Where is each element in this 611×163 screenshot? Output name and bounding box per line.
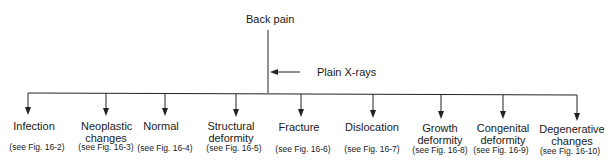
node-structural: Structural deformity xyxy=(202,120,260,144)
node-fracture: Fracture xyxy=(279,121,320,133)
node-growth: Growth deformity xyxy=(410,122,470,146)
ref-dislocation: (see Fig. 16-7) xyxy=(344,144,399,154)
ref-growth: (see Fig. 16-8) xyxy=(412,145,467,155)
ref-infection: (see Fig. 16-2) xyxy=(9,142,64,152)
ref-fracture: (see Fig. 16-6) xyxy=(275,144,330,154)
node-dislocation: Dislocation xyxy=(345,121,399,133)
node-degenerative: Degenerative changes xyxy=(539,123,605,147)
ref-degenerative: (see Fig. 16-10) xyxy=(540,146,600,156)
arrow-left-icon xyxy=(270,69,278,75)
root-node: Back pain xyxy=(246,13,294,25)
step-label: Plain X-rays xyxy=(317,66,376,78)
node-infection: Infection xyxy=(13,120,55,132)
node-congenital: Congenital deformity xyxy=(473,122,533,146)
node-normal: Normal xyxy=(143,120,178,132)
ref-normal: (see Fig. 16-4) xyxy=(137,143,192,153)
ref-neoplastic: (see Fig. 16-3) xyxy=(78,142,133,152)
node-neoplastic: Neoplastic changes xyxy=(81,120,131,144)
ref-structural: (see Fig. 16-5) xyxy=(206,143,261,153)
ref-congenital: (see Fig. 16-9) xyxy=(473,145,528,155)
